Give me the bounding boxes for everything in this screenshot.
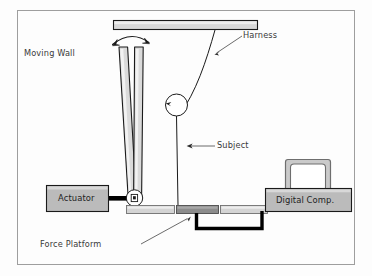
label-moving-wall: Moving Wall <box>24 49 75 57</box>
label-force-platform: Force Platform <box>40 240 101 248</box>
ceiling-beam <box>114 21 258 30</box>
pivot-joint <box>126 190 142 206</box>
label-harness: Harness <box>243 31 277 39</box>
force-platform-leader <box>141 217 191 244</box>
subject-figure <box>166 94 188 205</box>
label-digital-comp: Digital Comp. <box>276 196 334 204</box>
harness-leader <box>214 36 242 56</box>
label-subject: Subject <box>217 141 249 149</box>
subject-leader <box>187 144 215 149</box>
rotation-arrow-icon <box>113 36 150 45</box>
diagram-canvas: Moving Wall Harness Subject Force Platfo… <box>0 0 372 276</box>
force-platform <box>127 206 268 214</box>
moving-wall <box>119 47 143 198</box>
label-actuator: Actuator <box>58 194 95 202</box>
diagram-svg <box>0 0 372 276</box>
